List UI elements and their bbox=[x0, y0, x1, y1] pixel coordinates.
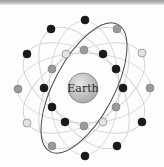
satellite-black-icon bbox=[48, 103, 56, 111]
orbit-diagram: Earth bbox=[0, 0, 164, 167]
satellite-grey-icon bbox=[146, 84, 154, 92]
satellite-grey-icon bbox=[80, 122, 88, 130]
satellite-black-icon bbox=[112, 65, 120, 73]
satellite-grey-icon bbox=[112, 103, 120, 111]
satellite-grey-icon bbox=[48, 65, 56, 73]
satellite-grey-icon bbox=[80, 46, 88, 54]
satellite-black-icon bbox=[138, 118, 146, 126]
satellite-black-icon bbox=[61, 118, 69, 126]
satellite-black-icon bbox=[47, 25, 55, 33]
satellite-grey-icon bbox=[48, 142, 56, 150]
satellite-light-icon bbox=[138, 49, 146, 57]
satellite-black-icon bbox=[81, 152, 89, 160]
satellite-black-icon bbox=[40, 84, 48, 92]
satellite-grey-icon bbox=[113, 25, 121, 33]
satellite-constellation-diagram: Earth bbox=[0, 0, 164, 167]
earth-label: Earth bbox=[67, 82, 98, 95]
satellite-black-icon bbox=[99, 50, 107, 58]
satellite-black-icon bbox=[113, 142, 121, 150]
satellite-light-icon bbox=[62, 50, 70, 58]
satellite-black-icon bbox=[119, 84, 127, 92]
satellite-black-icon bbox=[81, 16, 89, 24]
satellite-grey-icon bbox=[14, 85, 22, 93]
satellite-black-icon bbox=[23, 50, 31, 58]
earth: Earth bbox=[67, 73, 98, 103]
satellite-light-icon bbox=[23, 119, 31, 127]
satellite-light-icon bbox=[99, 118, 107, 126]
